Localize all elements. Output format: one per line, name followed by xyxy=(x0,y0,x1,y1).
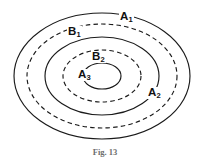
contour-label-A3-subscript: 3 xyxy=(87,73,91,82)
contour-label-B1-subscript: 1 xyxy=(77,30,81,39)
contour-ellipse-A1 xyxy=(14,13,190,139)
contour-label-B2-letter: B xyxy=(92,50,100,62)
contour-label-A1-subscript: 1 xyxy=(129,15,133,24)
contour-label-A1-letter: A xyxy=(120,10,128,22)
contour-ellipse-B1 xyxy=(27,24,177,128)
figure-container: A1 B1 B2 A3 A2 Fig. 13 xyxy=(0,0,210,157)
contour-label-B2: B2 xyxy=(91,51,106,63)
contour-label-B1: B1 xyxy=(67,26,82,38)
contour-label-B1-letter: B xyxy=(68,25,76,37)
contour-ellipse-A2 xyxy=(45,37,159,115)
contour-label-A2-letter: A xyxy=(148,86,156,98)
contour-label-B2-subscript: 2 xyxy=(101,55,105,64)
contour-label-A2: A2 xyxy=(147,87,162,99)
contour-diagram xyxy=(0,0,210,157)
contour-label-A3-letter: A xyxy=(78,68,86,80)
figure-caption: Fig. 13 xyxy=(0,148,210,157)
contour-label-A3: A3 xyxy=(77,69,92,81)
contour-label-A2-subscript: 2 xyxy=(157,91,161,100)
contour-label-A1: A1 xyxy=(119,11,134,23)
